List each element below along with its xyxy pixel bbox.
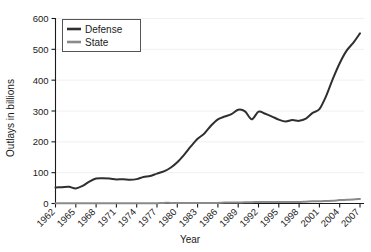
y-tick-label-300: 300 xyxy=(33,106,49,117)
line-chart-figure: 0100200300400500600 19621965196819711974… xyxy=(0,0,371,252)
y-tick-label-100: 100 xyxy=(33,167,49,178)
x-tick-label-1995: 1995 xyxy=(257,206,280,229)
x-tick-label-1980: 1980 xyxy=(156,206,179,229)
legend-label-state: State xyxy=(85,37,109,48)
x-tick-label-2001: 2001 xyxy=(298,206,321,229)
x-tick-label-1998: 1998 xyxy=(278,206,301,229)
y-tick-label-500: 500 xyxy=(33,44,49,55)
y-tick-label-400: 400 xyxy=(33,75,49,86)
x-tick-label-2007: 2007 xyxy=(339,206,362,229)
legend: Defense State xyxy=(63,20,141,52)
chart-canvas: 0100200300400500600 19621965196819711974… xyxy=(0,0,371,252)
x-axis: 1962196519681971197419771980198319861989… xyxy=(34,204,364,229)
x-tick-label-1968: 1968 xyxy=(75,206,98,229)
y-tick-label-600: 600 xyxy=(33,13,49,24)
series-line-state xyxy=(56,199,361,203)
x-axis-title: Year xyxy=(180,234,201,245)
legend-label-defense: Defense xyxy=(85,24,123,35)
y-tick-label-200: 200 xyxy=(33,136,49,147)
x-tick-label-2004: 2004 xyxy=(318,206,341,229)
x-tick-label-1971: 1971 xyxy=(95,206,118,229)
x-tick-label-1992: 1992 xyxy=(237,206,260,229)
x-tick-label-1974: 1974 xyxy=(115,206,138,229)
series-lines xyxy=(56,33,361,203)
x-tick-label-1977: 1977 xyxy=(136,206,159,229)
x-tick-label-1986: 1986 xyxy=(197,206,220,229)
y-axis-title: Outlays in billions xyxy=(5,79,16,157)
x-tick-label-1965: 1965 xyxy=(54,206,77,229)
x-tick-label-1983: 1983 xyxy=(176,206,199,229)
x-tick-label-1989: 1989 xyxy=(217,206,240,229)
y-axis: 0100200300400500600 xyxy=(33,13,56,209)
x-tick-label-1962: 1962 xyxy=(34,206,57,229)
